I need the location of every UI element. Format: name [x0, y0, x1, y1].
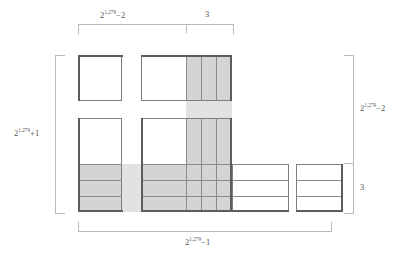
left-band-row-line-1 [78, 164, 122, 165]
label-bottom: 21,279−1 [185, 236, 210, 247]
left-band-row-line-3 [78, 196, 122, 197]
band-row-line-1 [141, 164, 289, 165]
strip-subcolumn-line-2 [201, 55, 202, 101]
label-right-upper-exponent: 1,279 [364, 102, 376, 108]
left-edge-left-top-tile [78, 55, 80, 101]
shade-strip-upper [187, 56, 231, 100]
strip-subcolumn-line-1 [186, 55, 187, 101]
detached-row-line-2 [296, 196, 342, 197]
top-edge-left-tile [78, 55, 123, 57]
label-right-lower-value: 3 [360, 182, 364, 192]
bracket-bottom [78, 222, 332, 232]
left-bottom-edge [78, 210, 123, 212]
connector-shade-vertical [186, 101, 232, 118]
label-left: 21,279+1 [14, 127, 39, 138]
label-right-lower: 3 [360, 182, 364, 192]
tile-left-top [78, 55, 122, 101]
detached-bottom-edge [296, 210, 343, 212]
right-edge-strip-upper [230, 55, 232, 101]
detached-right-edge [341, 164, 343, 212]
bracket-left [55, 55, 65, 214]
shade-left-band [79, 164, 121, 211]
diagram-canvas: 21,279−2 3 21,279+1 21,279−2 3 21,279−1 [0, 0, 420, 265]
bracket-right [344, 55, 354, 214]
label-top-right-value: 3 [205, 9, 209, 19]
band-bottom-edge [141, 210, 289, 212]
tile-band-right [232, 164, 289, 212]
label-top-left-exponent: 1,279 [104, 9, 116, 15]
left-edge-left-bottom-tile [78, 118, 80, 212]
connector-shade-horizontal [122, 164, 141, 212]
label-left-tail: +1 [30, 128, 39, 138]
label-right-upper: 21,279−2 [360, 102, 385, 113]
band-row-line-2 [141, 180, 289, 181]
bracket-top [78, 24, 234, 34]
tile-detached-square [296, 164, 342, 212]
strip-subcolumn-line-3 [216, 55, 217, 101]
label-top-left-tail: −2 [116, 10, 125, 20]
label-top-left: 21,279−2 [100, 9, 125, 20]
right-edge-strip-lower [230, 118, 232, 212]
label-bottom-tail: −1 [201, 237, 210, 247]
strip-band-line-3 [216, 164, 217, 212]
label-bottom-exponent: 1,279 [189, 236, 201, 242]
band-row-line-3 [141, 196, 289, 197]
bracket-top-divider [186, 24, 187, 33]
bracket-right-divider [344, 163, 353, 164]
top-edge-middle-tile [141, 55, 232, 57]
left-band-row-line-2 [78, 180, 122, 181]
left-edge-middle-bottom-tile [141, 118, 143, 212]
label-right-upper-tail: −2 [376, 103, 385, 113]
strip-band-line-1 [186, 164, 187, 212]
detached-row-line-1 [296, 180, 342, 181]
strip-band-line-2 [201, 164, 202, 212]
label-left-exponent: 1,279 [18, 127, 30, 133]
label-top-right: 3 [205, 9, 209, 19]
